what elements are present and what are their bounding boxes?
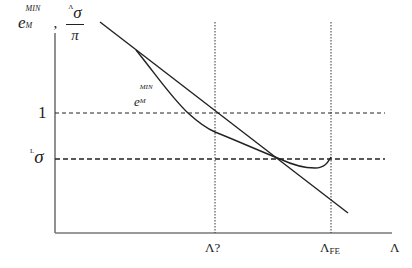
x-tick-label-lambda-fe: ΛFE <box>320 241 340 256</box>
y-axis-fraction: Λσ π <box>66 3 84 44</box>
x-axis-label: Λ <box>390 241 399 254</box>
y-axis-label-base: e <box>18 13 26 32</box>
y-axis-label: e MIN M , <box>18 14 57 31</box>
fraction-denominator: π <box>66 27 84 44</box>
curve-label-superscript: MIN <box>140 84 153 91</box>
fraction-numerator-symbol: σ <box>73 3 81 22</box>
curve-label-subscript: M <box>140 98 146 105</box>
y-axis-label-subscript: M <box>26 22 33 30</box>
sigma-symbol: σ <box>34 146 43 167</box>
y-axis-label-superscript: MIN <box>26 5 41 13</box>
lambda-fe-subscript: FE <box>329 246 340 256</box>
emin-curve <box>136 50 331 168</box>
y-tick-label-sigma: Lσ <box>30 147 44 166</box>
y-tick-label-one: 1 <box>38 104 47 121</box>
y-axis-label-separator: , <box>54 15 58 31</box>
curve-label: e MIN M <box>134 93 140 109</box>
fraction-numerator: Λσ <box>66 3 84 25</box>
x-tick-label-lambda-q: Λ? <box>205 241 220 254</box>
diagram-canvas <box>0 0 412 268</box>
